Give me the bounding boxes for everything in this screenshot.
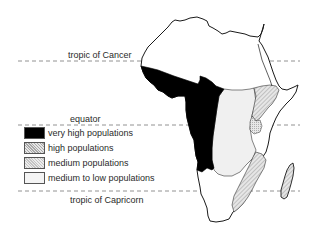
tropic-of-capricorn-label: tropic of Capricorn [70, 195, 144, 205]
equator-label: equator [70, 114, 101, 124]
africa-population-map [0, 0, 318, 237]
legend-item-high: high populations [24, 140, 155, 155]
legend-label: medium populations [48, 158, 129, 168]
swatch-high [24, 142, 45, 154]
legend-item-medium: medium populations [24, 155, 155, 170]
legend-label: very high populations [48, 128, 133, 138]
swatch-very-high [24, 127, 45, 139]
tropic-of-cancer-label: tropic of Cancer [68, 50, 132, 60]
swatch-medium-low [24, 172, 45, 184]
legend-item-medium-low: medium to low populations [24, 170, 155, 185]
madagascar [281, 163, 294, 199]
legend-item-very-high: very high populations [24, 125, 155, 140]
legend-label: medium to low populations [48, 173, 155, 183]
map-legend: very high populations high populations m… [24, 125, 155, 185]
legend-label: high populations [48, 143, 114, 153]
swatch-medium [24, 157, 45, 169]
